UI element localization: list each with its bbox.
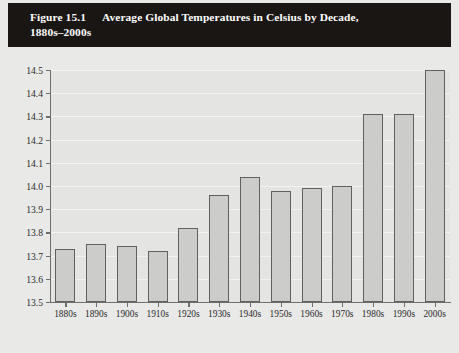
x-tick-label: 2000s xyxy=(423,309,445,319)
x-tick-label: 1930s xyxy=(208,309,230,319)
x-tick-label: 1910s xyxy=(146,309,168,319)
figure-title-line-2: 1880s–2000s xyxy=(30,25,451,40)
bar xyxy=(271,191,291,302)
x-tick-mark xyxy=(404,303,405,307)
y-tick-label: 13.9 xyxy=(26,204,43,215)
x-tick-mark xyxy=(281,303,282,307)
x-tick-label: 1980s xyxy=(362,309,384,319)
y-tick-label: 14.3 xyxy=(26,111,43,122)
x-tick-mark xyxy=(373,303,374,307)
y-tick-label: 14.4 xyxy=(26,88,43,99)
bars-layer xyxy=(50,70,450,302)
y-tick-label: 14.0 xyxy=(26,181,43,192)
y-tick-label: 13.8 xyxy=(26,227,43,238)
bar xyxy=(302,188,322,302)
y-tick-label: 13.5 xyxy=(26,297,43,308)
x-tick-label: 1890s xyxy=(85,309,107,319)
y-tick-label: 14.2 xyxy=(26,134,43,145)
bar xyxy=(363,114,383,302)
x-tick-label: 1990s xyxy=(393,309,415,319)
figure-title-banner: Figure 15.1 Average Global Temperatures … xyxy=(8,3,451,47)
x-tick-label: 1900s xyxy=(116,309,138,319)
figure-container: Figure 15.1 Average Global Temperatures … xyxy=(0,0,459,353)
x-tick-mark xyxy=(435,303,436,307)
x-tick-mark xyxy=(188,303,189,307)
bar xyxy=(148,251,168,302)
x-tick-mark xyxy=(96,303,97,307)
x-tick-mark xyxy=(127,303,128,307)
x-tick-mark xyxy=(250,303,251,307)
y-tick-mark xyxy=(46,302,50,303)
figure-title-row-1: Figure 15.1 Average Global Temperatures … xyxy=(30,10,451,25)
y-tick-label: 14.5 xyxy=(26,65,43,76)
x-tick-label: 1920s xyxy=(177,309,199,319)
bar xyxy=(394,114,414,302)
bar xyxy=(178,228,198,302)
x-tick-label: 1950s xyxy=(270,309,292,319)
bar xyxy=(86,244,106,302)
x-tick-mark xyxy=(342,303,343,307)
bar xyxy=(425,70,445,302)
bar xyxy=(55,249,75,302)
y-tick-label: 13.7 xyxy=(26,250,43,261)
bar xyxy=(117,246,137,302)
x-tick-mark xyxy=(312,303,313,307)
bar xyxy=(209,195,229,302)
x-tick-label: 1970s xyxy=(331,309,353,319)
x-tick-mark xyxy=(65,303,66,307)
x-tick-mark xyxy=(219,303,220,307)
y-tick-label: 14.1 xyxy=(26,157,43,168)
figure-title-line-1: Average Global Temperatures in Celsius b… xyxy=(102,10,359,25)
x-tick-label: 1940s xyxy=(239,309,261,319)
x-tick-label: 1880s xyxy=(54,309,76,319)
y-tick-label: 13.6 xyxy=(26,273,43,284)
figure-number: Figure 15.1 xyxy=(30,10,86,25)
x-tick-mark xyxy=(158,303,159,307)
x-tick-label: 1960s xyxy=(300,309,322,319)
chart-area: 13.513.613.713.813.914.014.114.214.314.4… xyxy=(0,47,459,353)
bar xyxy=(332,186,352,302)
bar xyxy=(240,177,260,302)
